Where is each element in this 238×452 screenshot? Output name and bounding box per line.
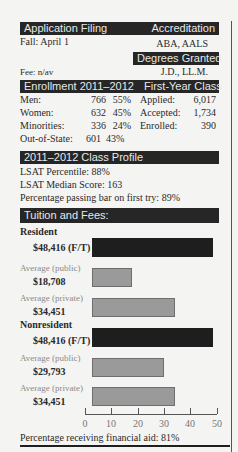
x-axis-tick xyxy=(111,408,112,414)
x-axis-tick-label: 10 xyxy=(106,418,116,429)
nonresident-tuition-value: $48,416 (F/T) xyxy=(33,335,90,347)
first-year-value: 390 xyxy=(201,120,216,132)
nonresident-avg-private-label: Average (private) xyxy=(20,382,83,394)
enrollment-count: 601 xyxy=(86,133,101,145)
x-axis-line xyxy=(85,414,217,415)
resident-tuition-bar xyxy=(92,238,213,257)
lsat-median: LSAT Median Score: 163 xyxy=(20,179,122,191)
x-axis-tick xyxy=(217,408,218,414)
header-class-profile: 2011–2012 Class Profile xyxy=(20,151,219,164)
resident-tuition-value: $48,416 (F/T) xyxy=(33,242,90,254)
resident-avg-public-value: $18,708 xyxy=(33,276,66,288)
right-border-line xyxy=(231,21,232,452)
enrollment-count: 632 xyxy=(80,107,106,119)
enrollment-count: 336 xyxy=(80,120,106,132)
degrees-value: J.D., LL.M. xyxy=(161,66,208,78)
enrollment-label: Women: xyxy=(20,107,54,119)
financial-aid: Percentage receiving financial aid: 81% xyxy=(20,432,179,444)
resident-avg-private-value: $34,451 xyxy=(33,306,66,318)
nonresident-tuition-bar xyxy=(92,328,213,347)
first-year-label: Accepted: xyxy=(140,107,181,119)
x-axis-tick xyxy=(190,408,191,414)
enrollment-pct: 43% xyxy=(106,133,124,145)
application-fee: Fee: n/av xyxy=(20,66,53,78)
x-axis-tick-label: 0 xyxy=(83,418,88,429)
header-accreditation: Accreditation xyxy=(110,22,219,35)
nonresident-avg-public-label: Average (public) xyxy=(20,352,81,364)
accreditation-value: ABA, AALS xyxy=(156,38,208,50)
header-first-year-class: First-Year Class xyxy=(140,80,219,93)
header-enrollment: Enrollment 2011–2012 xyxy=(20,80,140,93)
enrollment-count: 766 xyxy=(80,94,106,106)
enrollment-label: Out-of-State: xyxy=(20,133,73,145)
x-axis-tick xyxy=(138,408,139,414)
nonresident-avg-public-bar xyxy=(92,358,164,377)
lsat-percentile: LSAT Percentile: 88% xyxy=(20,166,110,178)
nonresident-avg-public-value: $29,793 xyxy=(33,366,66,378)
x-axis-tick xyxy=(85,408,86,414)
enrollment-pct: 24% xyxy=(106,120,131,132)
header-degrees-granted: Degrees Granted xyxy=(133,52,219,65)
enrollment-label: Men: xyxy=(20,94,41,106)
x-axis-tick-label: 50 xyxy=(212,418,222,429)
bottom-divider xyxy=(20,445,230,447)
application-fall: Fall: April 1 xyxy=(20,36,69,48)
resident-avg-public-bar xyxy=(92,268,132,287)
enrollment-pct: 45% xyxy=(106,107,131,119)
nonresident-avg-private-bar xyxy=(92,387,175,406)
resident-avg-public-label: Average (public) xyxy=(20,262,81,274)
header-application-filing: Application Filing xyxy=(20,22,110,35)
nonresident-label: Nonresident xyxy=(20,319,72,331)
x-axis-tick-label: 20 xyxy=(133,418,143,429)
resident-label: Resident xyxy=(20,226,57,238)
bar-pass-rate: Percentage passing bar on first try: 89% xyxy=(20,192,180,204)
first-year-value: 6,017 xyxy=(194,94,217,106)
first-year-value: 1,734 xyxy=(194,107,217,119)
resident-avg-private-bar xyxy=(92,298,175,317)
x-axis-tick-label: 30 xyxy=(159,418,169,429)
first-year-label: Enrolled: xyxy=(140,120,177,132)
first-year-label: Applied: xyxy=(140,94,175,106)
header-tuition: Tuition and Fees: xyxy=(20,208,219,223)
x-axis-tick-label: 40 xyxy=(185,418,195,429)
enrollment-pct: 55% xyxy=(106,94,131,106)
nonresident-avg-private-value: $34,451 xyxy=(33,396,66,408)
x-axis-tick xyxy=(164,408,165,414)
enrollment-label: Minorities: xyxy=(20,120,64,132)
resident-avg-private-label: Average (private) xyxy=(20,292,83,304)
